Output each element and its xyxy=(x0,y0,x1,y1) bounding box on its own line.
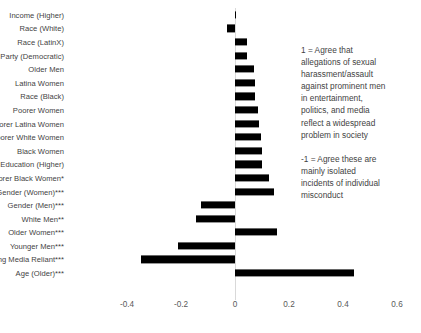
bar xyxy=(235,11,236,18)
bar-track xyxy=(0,8,293,22)
annotation-line: politics, and media xyxy=(301,104,419,116)
bar-row: Right-Wing Media Reliant*** xyxy=(0,253,293,267)
annotation-line: against prominent men xyxy=(301,80,419,92)
bar-track xyxy=(0,212,293,226)
bar-row: White Men** xyxy=(0,212,293,226)
x-axis-tick-label: -0.4 xyxy=(120,300,134,309)
bar-track xyxy=(0,253,293,267)
bar-track xyxy=(0,130,293,144)
bar-track xyxy=(0,35,293,49)
annotation-line: harassment/assault xyxy=(301,68,419,80)
annotation-line: in entertainment, xyxy=(301,92,419,104)
annotation-line: reflect a widespread xyxy=(301,117,419,129)
bar xyxy=(235,229,277,236)
bar xyxy=(235,38,247,45)
bar-track xyxy=(0,62,293,76)
bar xyxy=(235,52,247,59)
bar-row: Age (Older)*** xyxy=(0,266,293,280)
bar-track xyxy=(0,266,293,280)
bar-track xyxy=(0,171,293,185)
bar xyxy=(227,25,235,32)
bar xyxy=(235,269,354,276)
bar-row: Gender (Women)*** xyxy=(0,185,293,199)
x-axis-tick-label: 0.2 xyxy=(283,300,294,309)
bar-row: Gender (Men)*** xyxy=(0,198,293,212)
bar xyxy=(196,215,235,222)
bar-row: Race (Black) xyxy=(0,90,293,104)
x-axis-tick-label: 0 xyxy=(233,300,238,309)
bar xyxy=(141,256,236,263)
scale-annotation: 1 = Agree thatallegations of sexualharas… xyxy=(301,44,419,201)
bar xyxy=(235,93,255,100)
annotation-spacer xyxy=(301,141,419,153)
plot-area: Income (Higher)Race (White)Race (LatinX)… xyxy=(0,8,293,300)
bar xyxy=(235,106,258,113)
bar xyxy=(235,120,259,127)
bar xyxy=(235,147,262,154)
bar-track xyxy=(0,239,293,253)
bar-track xyxy=(0,185,293,199)
annotation-line: problem in society xyxy=(301,129,419,141)
bar xyxy=(235,66,254,73)
bar-track xyxy=(0,117,293,131)
bar xyxy=(235,134,261,141)
annotation-line: 1 = Agree that xyxy=(301,44,419,56)
bar xyxy=(201,202,235,209)
bar-track xyxy=(0,103,293,117)
bar-row: Younger Men*** xyxy=(0,239,293,253)
bar-track xyxy=(0,198,293,212)
bar-row: Older Men xyxy=(0,62,293,76)
bar-row: Poorer White Women xyxy=(0,130,293,144)
bar-row: Race (LatinX) xyxy=(0,35,293,49)
bar-row: Latina Women xyxy=(0,76,293,90)
bar xyxy=(235,79,255,86)
bar xyxy=(178,242,235,249)
bar-row: Poorer Women xyxy=(0,103,293,117)
bar-row: Education (Higher) xyxy=(0,158,293,172)
annotation-line: incidents of individual xyxy=(301,177,419,189)
annotation-positive-block: 1 = Agree thatallegations of sexualharas… xyxy=(301,44,419,141)
x-axis-tick-label: -0.2 xyxy=(174,300,188,309)
bar-track xyxy=(0,76,293,90)
bar-row: Black Women xyxy=(0,144,293,158)
annotation-line: -1 = Agree these are xyxy=(301,153,419,165)
annotation-line: mainly isolated xyxy=(301,165,419,177)
bar-row: Older Women*** xyxy=(0,226,293,240)
bar xyxy=(235,174,269,181)
bar-row: Poorer Latina Women xyxy=(0,117,293,131)
bar xyxy=(235,161,262,168)
bar-track xyxy=(0,144,293,158)
bar-track xyxy=(0,22,293,36)
annotation-negative-block: -1 = Agree these aremainly isolatedincid… xyxy=(301,153,419,201)
x-axis-tick-label: 0.6 xyxy=(391,300,402,309)
x-axis-tick-label: 0.4 xyxy=(337,300,348,309)
bar-track xyxy=(0,90,293,104)
bar-track xyxy=(0,158,293,172)
x-axis: -0.4-0.200.20.40.6 xyxy=(0,300,421,320)
bar-row: Party (Democratic) xyxy=(0,49,293,63)
bar-row: Race (White) xyxy=(0,22,293,36)
bar-row: Income (Higher) xyxy=(0,8,293,22)
bar-track xyxy=(0,226,293,240)
bar-track xyxy=(0,49,293,63)
annotation-line: misconduct xyxy=(301,189,419,201)
bar xyxy=(235,188,274,195)
annotation-line: allegations of sexual xyxy=(301,56,419,68)
bar-chart: Income (Higher)Race (White)Race (LatinX)… xyxy=(0,0,421,333)
bar-row: Poorer Black Women* xyxy=(0,171,293,185)
